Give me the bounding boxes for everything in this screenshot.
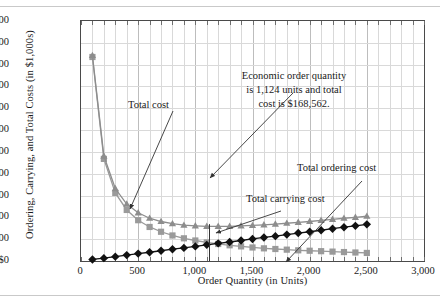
x-tick-label: 500 bbox=[107, 266, 167, 277]
x-tick-label: 2,500 bbox=[336, 266, 396, 277]
eoq-annotation-line-3: cost is $168,562. bbox=[205, 97, 383, 111]
plot-area bbox=[80, 20, 425, 262]
leader-total-carrying-cost bbox=[216, 211, 281, 233]
y-tick-label: $300 bbox=[0, 190, 9, 201]
x-tick-label: 3,000 bbox=[393, 266, 440, 277]
y-tick-label: $0 bbox=[0, 255, 9, 266]
y-tick-label: $800 bbox=[0, 80, 9, 91]
x-tick-label: 2,000 bbox=[279, 266, 339, 277]
x-tick-label: 1,000 bbox=[164, 266, 224, 277]
axis-tick bbox=[424, 21, 425, 25]
series-label-total-cost: Total cost bbox=[128, 99, 169, 110]
y-tick-label: $1,100 bbox=[0, 15, 9, 26]
series-label-total-carrying-cost: Total carrying cost bbox=[246, 193, 325, 204]
series-label-total-ordering-cost: Total ordering cost bbox=[297, 162, 376, 173]
bottom-divider-rule bbox=[0, 295, 440, 296]
y-tick-label: $900 bbox=[0, 59, 9, 70]
y-axis-title: Ordering, Carrying, and Total Costs (in … bbox=[24, 10, 35, 260]
eoq-annotation-line-1: Economic order quantity bbox=[205, 69, 383, 83]
y-tick-label: $1,000 bbox=[0, 37, 9, 48]
leader-total-cost bbox=[130, 111, 173, 209]
eoq-annotation: Economic order quantity is 1,124 units a… bbox=[205, 69, 383, 111]
y-tick-label: $100 bbox=[0, 233, 9, 244]
axis-tick bbox=[424, 257, 425, 261]
y-tick-label: $400 bbox=[0, 168, 9, 179]
eoq-annotation-line-2: is 1,124 units and total bbox=[205, 83, 383, 97]
y-tick-label: $600 bbox=[0, 124, 9, 135]
y-tick-label: $500 bbox=[0, 146, 9, 157]
y-tick-label: $700 bbox=[0, 102, 9, 113]
y-tick-label: $200 bbox=[0, 211, 9, 222]
x-tick-label: 0 bbox=[50, 266, 110, 277]
annotation-leader-lines bbox=[81, 21, 424, 261]
x-tick-label: 1,500 bbox=[222, 266, 282, 277]
x-axis-title: Order Quantity (in Units) bbox=[80, 275, 425, 286]
eoq-cost-chart: Ordering, Carrying, and Total Costs (in … bbox=[0, 7, 440, 295]
